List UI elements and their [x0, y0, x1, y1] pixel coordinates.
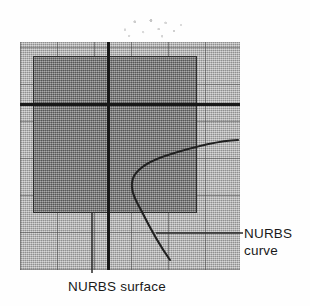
nurbs-diagram-figure: NURBS curve NURBS surface: [0, 0, 310, 306]
nurbs-curve-annotation: NURBS curve: [244, 225, 292, 259]
vector-overlay: [0, 0, 310, 306]
nurbs-curve-path: [132, 140, 238, 260]
nurbs-curve-annotation-line1: NURBS: [244, 225, 292, 242]
nurbs-curve-annotation-line2: curve: [244, 242, 292, 259]
nurbs-surface-annotation: NURBS surface: [68, 279, 166, 294]
